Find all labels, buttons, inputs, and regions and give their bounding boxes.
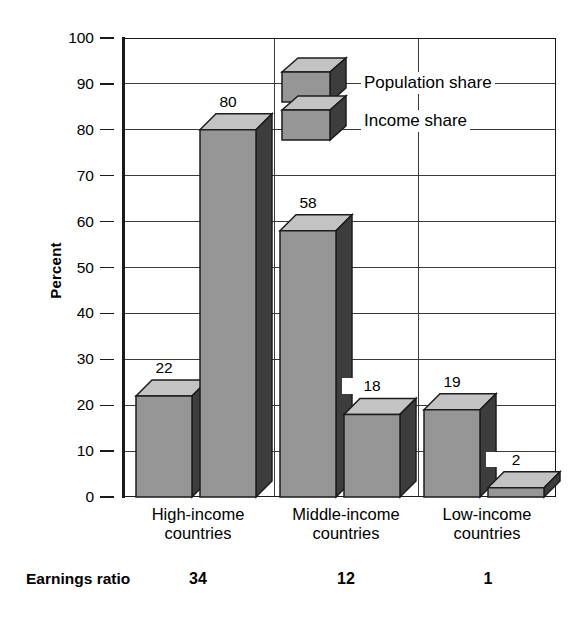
category-label-line2: countries xyxy=(418,524,556,543)
category-label-line2: countries xyxy=(274,524,418,543)
plot-area: 22805818192 Population share Income shar… xyxy=(122,38,556,497)
earnings-ratio-value-high: 34 xyxy=(168,570,228,588)
bar-front-face xyxy=(488,488,544,497)
bar-front-face xyxy=(280,231,336,497)
earnings-ratio-value-low: 1 xyxy=(458,570,518,588)
bar-side-face xyxy=(400,398,416,497)
bar-population-share-0 xyxy=(136,380,208,497)
bar-value-label-80: 80 xyxy=(198,94,258,110)
y-tick-mark-10 xyxy=(100,450,114,451)
bar-front-face xyxy=(136,396,192,497)
y-tick-mark-0 xyxy=(100,496,114,497)
y-tick-mark-70 xyxy=(100,175,114,176)
bar-front-face xyxy=(344,414,400,497)
y-tick-label-70: 70 xyxy=(54,168,94,184)
y-tick-label-100: 100 xyxy=(54,30,94,46)
legend-label-income-share: Income share xyxy=(361,110,470,132)
bar-population-share-1 xyxy=(280,215,352,497)
y-tick-label-50: 50 xyxy=(54,260,94,276)
category-label-line1: Low-income xyxy=(418,505,556,524)
y-tick-mark-40 xyxy=(100,313,114,314)
category-label-low-income: Low-income countries xyxy=(418,505,556,544)
bar-value-label-2: 2 xyxy=(486,452,546,468)
bar-side-face xyxy=(256,114,272,497)
y-tick-label-0: 0 xyxy=(54,489,94,505)
legend-cube-income-share xyxy=(282,96,346,140)
bar-income-share-0 xyxy=(200,114,272,497)
earnings-ratio-value-middle: 12 xyxy=(316,570,376,588)
bar-value-label-18: 18 xyxy=(342,378,402,394)
y-tick-mark-50 xyxy=(100,267,114,268)
bar-population-share-2 xyxy=(424,394,496,497)
y-tick-label-80: 80 xyxy=(54,122,94,138)
category-label-line2: countries xyxy=(122,524,274,543)
category-label-line1: High-income xyxy=(122,505,274,524)
legend-label-population-share: Population share xyxy=(361,72,495,94)
category-label-high-income: High-income countries xyxy=(122,505,274,544)
y-tick-label-30: 30 xyxy=(54,351,94,367)
y-tick-mark-100 xyxy=(100,37,114,38)
y-tick-mark-20 xyxy=(100,405,114,406)
bar-value-label-58: 58 xyxy=(278,195,338,211)
y-tick-label-90: 90 xyxy=(54,76,94,92)
earnings-ratio-label: Earnings ratio xyxy=(26,570,130,588)
y-tick-label-20: 20 xyxy=(54,397,94,413)
y-tick-mark-90 xyxy=(100,83,114,84)
bar-value-label-19: 19 xyxy=(422,374,482,390)
bar-income-share-2 xyxy=(488,472,560,497)
bar-front-face xyxy=(424,410,480,497)
bar-income-share-1 xyxy=(344,398,416,497)
y-tick-label-40: 40 xyxy=(54,305,94,321)
category-label-line1: Middle-income xyxy=(274,505,418,524)
bar-value-label-22: 22 xyxy=(134,360,194,376)
y-tick-mark-80 xyxy=(100,129,114,130)
y-tick-mark-30 xyxy=(100,359,114,360)
y-tick-label-60: 60 xyxy=(54,214,94,230)
bar-front-face xyxy=(200,130,256,497)
category-label-middle-income: Middle-income countries xyxy=(274,505,418,544)
y-tick-mark-60 xyxy=(100,221,114,222)
legend: Population share Income share xyxy=(272,48,532,148)
y-tick-label-10: 10 xyxy=(54,443,94,459)
chart-root: Percent 1009080706050403020100 228058181… xyxy=(0,0,586,625)
